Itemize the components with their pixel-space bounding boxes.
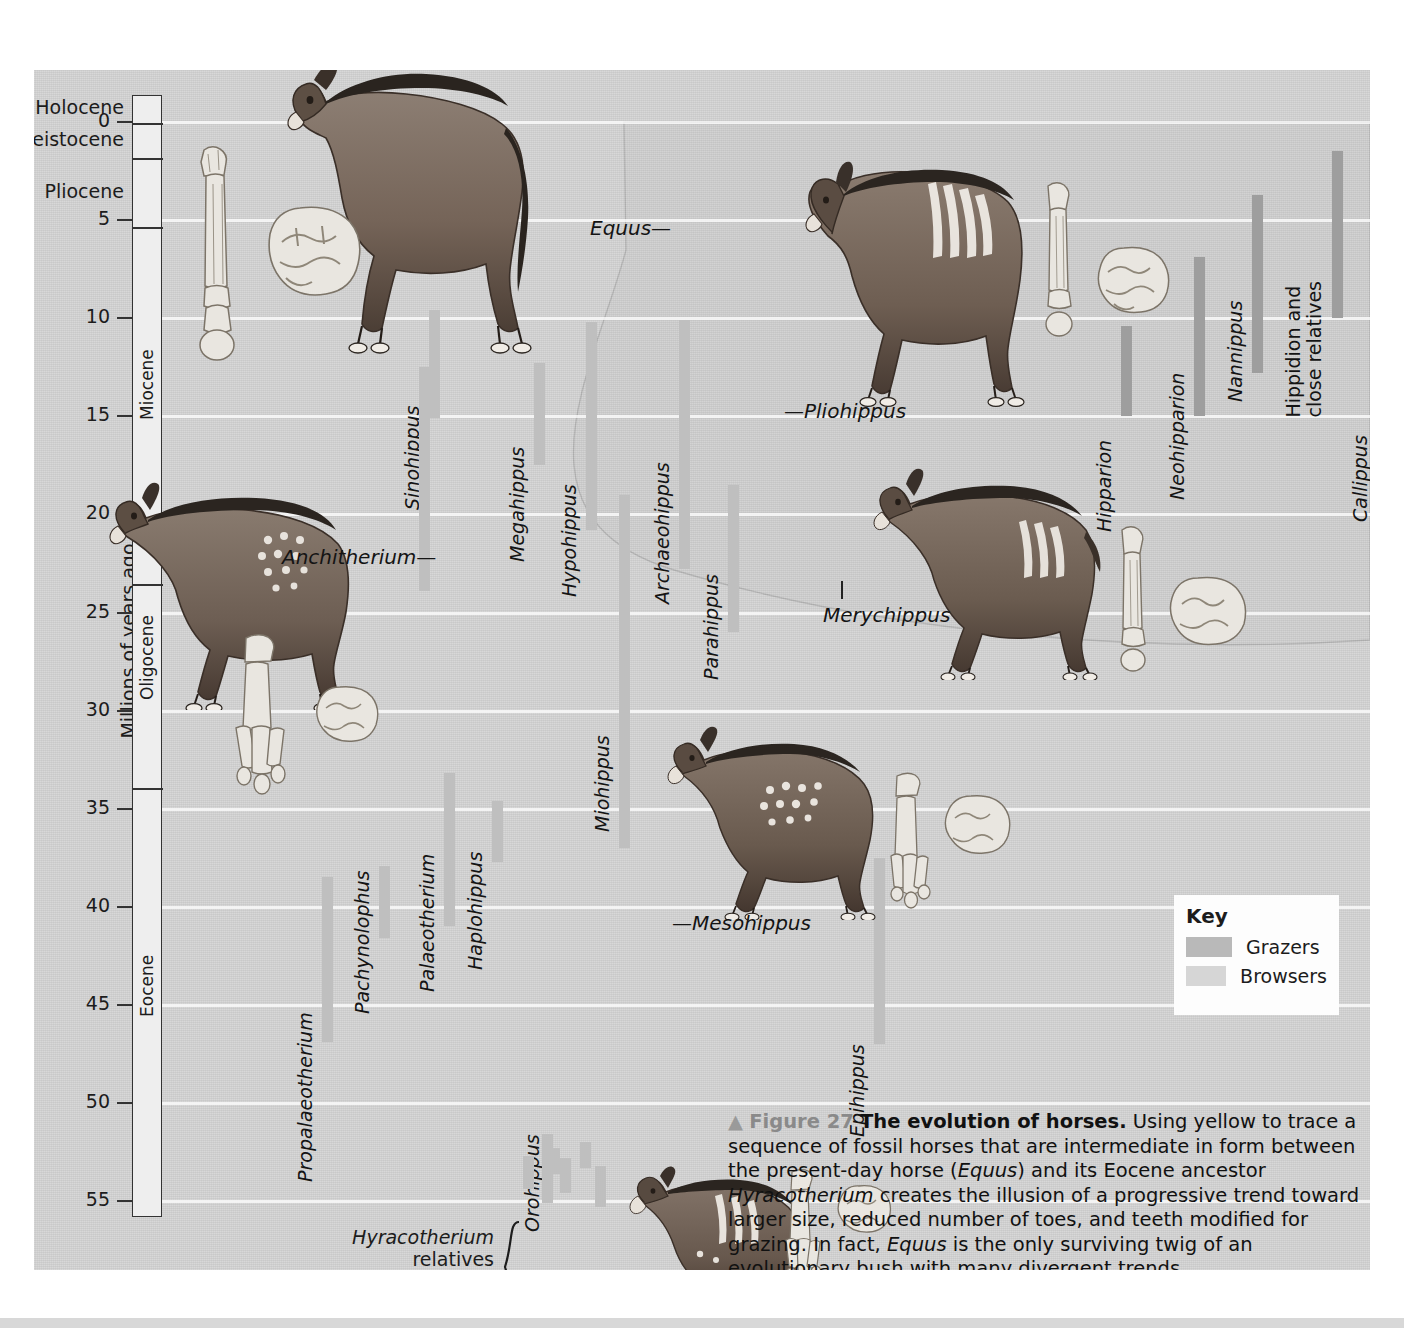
- axis-tick: [117, 317, 132, 319]
- epoch-separator: [133, 788, 163, 790]
- epoch-label-holocene: Holocene: [34, 96, 124, 118]
- axis-tick: [117, 808, 132, 810]
- taxon-label-propalaeotherium: Propalaeotherium: [294, 1012, 316, 1182]
- mesohippus-illustration: [644, 720, 894, 920]
- mesohippus-tooth-illustration: [939, 790, 1011, 862]
- epoch-separator: [133, 123, 163, 125]
- figure-caption: ▲ Figure 27 The evolution of horses. Usi…: [728, 1110, 1370, 1270]
- caption-genus: Hyracotherium: [728, 1184, 874, 1207]
- axis-tick-label: 45: [54, 992, 110, 1014]
- pliohippus-tooth-illustration: [1090, 240, 1172, 322]
- epoch-label-pleistocene: Pleistocene: [34, 128, 124, 150]
- axis-tick-label: 10: [54, 305, 110, 327]
- taxon-label-neohipparion: Neohipparion: [1166, 373, 1188, 500]
- epoch-separator: [133, 227, 163, 229]
- axis-tick: [117, 121, 132, 123]
- key-items: GrazersBrowsers: [1186, 936, 1327, 987]
- curly-bracket-icon: [497, 1220, 523, 1270]
- range-bar-hipparion: [1121, 326, 1132, 416]
- equus-limb-bone-illustration: [184, 140, 254, 370]
- taxon-label-callippus: Callippus: [1349, 435, 1370, 522]
- oligocene-limb-bone-illustration: [220, 630, 300, 810]
- axis-tick-label: 15: [54, 403, 110, 425]
- figure-number: Figure 27: [749, 1110, 854, 1133]
- callout-mesohippus: —Mesohippus: [672, 911, 811, 935]
- range-bar-palaeotherium: [444, 773, 455, 926]
- oligocene-tooth-illustration: [310, 680, 380, 750]
- taxon-label-haplohippus: Haplohippus: [464, 852, 486, 970]
- callout-anchitherium: Anchitherium—: [282, 545, 436, 569]
- range-bar-parahippus: [728, 485, 739, 632]
- taxon-label-archaeohippus: Archaeohippus: [651, 462, 673, 604]
- key-label: Browsers: [1240, 965, 1327, 987]
- epoch-label-pliocene: Pliocene: [34, 180, 124, 202]
- taxon-label-nannippus: Nannippus: [1224, 301, 1246, 402]
- range-bar-hyraco-rel-3: [580, 1142, 591, 1168]
- axis-tick: [117, 1004, 132, 1006]
- range-bar-hyraco-rel-4: [595, 1166, 606, 1207]
- key-swatch: [1186, 966, 1226, 986]
- page-bottom-rule: [0, 1318, 1404, 1328]
- caption-triangle-icon: ▲: [728, 1110, 743, 1133]
- figure-panel: Millions of years ago 051015202530354045…: [34, 70, 1370, 1270]
- range-bar-pachynolophus: [379, 866, 390, 939]
- hyraco-genus: Hyracotherium: [334, 1227, 494, 1249]
- range-bar-miohippus: [619, 495, 630, 848]
- mesohippus-limb-bone-illustration: [879, 770, 939, 920]
- equus-tooth-illustration: [256, 198, 366, 308]
- epoch-separator: [133, 158, 163, 160]
- axis-tick-label: 40: [54, 894, 110, 916]
- range-bar-nannippus: [1252, 195, 1263, 374]
- pliohippus-illustration: [752, 148, 1052, 408]
- axis-tick: [117, 1102, 132, 1104]
- key-row: Browsers: [1186, 965, 1327, 987]
- range-bar-propalaeotherium: [322, 877, 333, 1042]
- callout-equus: Equus—: [590, 216, 671, 240]
- axis-tick: [117, 219, 132, 221]
- range-bar-hyraco-rel-1: [542, 1134, 553, 1203]
- merychippus-illustration: [844, 460, 1114, 680]
- axis-tick: [117, 906, 132, 908]
- taxon-label-pachynolophus: Pachynolophus: [351, 871, 373, 1014]
- epoch-label-eocene: Eocene: [137, 987, 157, 1017]
- range-bar-hyraco-rel-2: [560, 1158, 571, 1193]
- taxon-label-hypohippus: Hypohippus: [558, 484, 580, 597]
- key-row: Grazers: [1186, 936, 1327, 958]
- axis-tick-label: 50: [54, 1090, 110, 1112]
- range-bar-neohipparion: [1194, 257, 1205, 416]
- gridline: [139, 1102, 1370, 1105]
- hyracotherium-relatives-label: Hyracotherium relatives: [334, 1227, 494, 1270]
- merychippus-limb-bone-illustration: [1108, 522, 1160, 682]
- caption-genus: Equus: [887, 1233, 947, 1256]
- taxon-label-hippidion-and-close-relatives: Hippidion andclose relatives: [1283, 281, 1326, 418]
- range-bar-megahippus: [534, 363, 545, 465]
- range-bar-hyraco-rel-0: [523, 1156, 534, 1189]
- figure-title: The evolution of horses.: [860, 1110, 1127, 1133]
- key-title: Key: [1186, 904, 1327, 928]
- callout-leader-tick: [841, 581, 843, 599]
- axis-tick: [117, 1200, 132, 1202]
- axis-tick: [117, 415, 132, 417]
- merychippus-tooth-illustration: [1162, 570, 1248, 656]
- caption-text: ) and its Eocene ancestor: [1017, 1159, 1265, 1182]
- callout-pliohippus: —Pliohippus: [784, 399, 906, 423]
- pliohippus-limb-bone-illustration: [1034, 178, 1086, 348]
- range-bar-archaeohippus: [679, 320, 690, 569]
- axis-tick-label: 55: [54, 1188, 110, 1210]
- taxon-label-megahippus: Megahippus: [506, 447, 528, 562]
- range-bar-hippidion-and-close-relatives: [1332, 151, 1343, 318]
- caption-genus: Equus: [958, 1159, 1018, 1182]
- epoch-label-miocene: Miocene: [137, 390, 157, 420]
- range-bar-haplohippus: [492, 801, 503, 862]
- axis-tick-label: 35: [54, 796, 110, 818]
- axis-tick-label: 5: [54, 207, 110, 229]
- hyraco-relatives-word: relatives: [334, 1249, 494, 1270]
- taxon-label-parahippus: Parahippus: [700, 574, 722, 680]
- key-swatch: [1186, 937, 1232, 957]
- taxon-label-palaeotherium: Palaeotherium: [416, 854, 438, 992]
- callout-merychippus: Merychippus: [823, 603, 950, 627]
- key-label: Grazers: [1246, 936, 1320, 958]
- taxon-label-miohippus: Miohippus: [591, 735, 613, 832]
- caption-body: Using yellow to trace a sequence of foss…: [728, 1110, 1359, 1270]
- key-legend: Key GrazersBrowsers: [1174, 895, 1339, 1015]
